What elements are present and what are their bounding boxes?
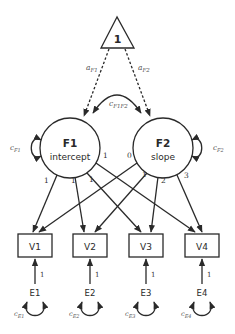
cov-sub: F1F2 — [112, 103, 128, 109]
error-e2: 1 E2 cE2 — [69, 259, 99, 319]
svg-text:cE3: cE3 — [125, 310, 135, 319]
svg-text:cE4: cE4 — [181, 310, 191, 319]
e3-variance-loop — [137, 302, 155, 316]
observed-v4: V4 — [185, 234, 219, 257]
loading-f1-v2: 1 — [71, 176, 76, 185]
e3-var-sub: E3 — [128, 313, 136, 319]
v4-label: V4 — [196, 242, 208, 252]
svg-text:cF1: cF1 — [10, 144, 21, 153]
e2-var-sub: E2 — [72, 313, 80, 319]
svg-text:cF1F2: cF1F2 — [109, 99, 128, 109]
observed-v3: V3 — [129, 234, 163, 257]
error-e1: 1 E1 cE1 — [14, 259, 44, 319]
f2-var-sub: F2 — [216, 147, 224, 153]
e2-label: E2 — [85, 288, 96, 298]
error-e4: 1 E4 cE4 — [181, 259, 211, 319]
a-f1-sub: F1 — [89, 67, 97, 73]
e4-label: E4 — [197, 288, 208, 298]
factor-f1: F1 intercept cF1 — [10, 118, 100, 178]
observed-v2: V2 — [73, 234, 107, 257]
loading-f2-v3: 2 — [161, 176, 166, 185]
loading-f2-v2: 1 — [142, 170, 147, 179]
loading-f1-v4: 1 — [103, 151, 108, 160]
loading-f2-v4: 3 — [184, 171, 189, 180]
e1-variance-loop — [26, 302, 44, 316]
a-f2-sub: F2 — [141, 67, 150, 73]
observed-v1: V1 — [18, 234, 52, 257]
svg-text:aF1: aF1 — [86, 63, 98, 73]
loading-f2-v1: 0 — [127, 151, 132, 160]
e4-var-sub: E4 — [184, 313, 192, 319]
svg-text:aF2: aF2 — [138, 63, 150, 73]
f1-title: F1 — [63, 137, 77, 149]
f2-title: F2 — [156, 137, 170, 149]
e1-label: E1 — [30, 288, 41, 298]
e4-path-label: 1 — [207, 271, 211, 279]
loading-f1-v3: 1 — [89, 175, 94, 184]
svg-text:cE2: cE2 — [69, 310, 79, 319]
v1-label: V1 — [29, 242, 41, 252]
e3-path-label: 1 — [151, 271, 155, 279]
e4-variance-loop — [193, 302, 211, 316]
v2-label: V2 — [84, 242, 96, 252]
f2-subtitle: slope — [151, 152, 175, 162]
v3-label: V3 — [140, 242, 152, 252]
constant-path-f2: aF2 — [125, 49, 150, 116]
svg-text:cE1: cE1 — [14, 310, 24, 319]
svg-text:cF2: cF2 — [213, 144, 224, 153]
loading-f1-v1: 1 — [44, 176, 49, 185]
covariance-f1-f2: cF1F2 — [93, 95, 141, 113]
constant-label: 1 — [114, 33, 122, 46]
f1-subtitle: intercept — [50, 152, 91, 162]
e2-path-label: 1 — [95, 271, 99, 279]
error-e3: 1 E3 cE3 — [125, 259, 155, 319]
constant-path-f1: aF1 — [84, 49, 109, 116]
e2-variance-loop — [81, 302, 99, 316]
e3-label: E3 — [141, 288, 152, 298]
e1-path-label: 1 — [40, 271, 44, 279]
e1-var-sub: E1 — [17, 313, 25, 319]
f1-var-sub: F1 — [13, 147, 21, 153]
constant-node: 1 — [101, 17, 134, 48]
factor-f2: F2 slope cF2 — [133, 118, 224, 178]
path-diagram: 1 aF1 aF2 cF1F2 F1 intercept cF1 F2 slop… — [0, 0, 235, 334]
